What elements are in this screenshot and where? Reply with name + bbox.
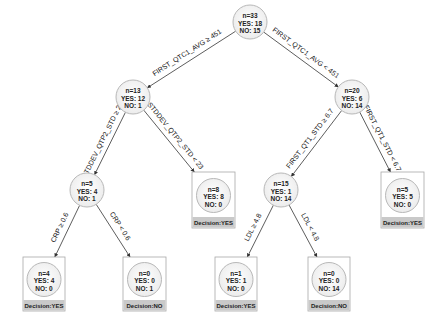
node-yes-count: YES: 0 bbox=[134, 277, 155, 284]
node-no-count: NO: 14 bbox=[319, 285, 340, 292]
edge-condition-label: CRP ≥ 0.6 bbox=[49, 211, 69, 243]
edge-condition-label: LDL ≥ 4.8 bbox=[243, 212, 263, 242]
tree-edge: LDL ≥ 4.8 bbox=[243, 205, 273, 257]
leaf-node: Decision:YESn=8YES: 8NO: 0 bbox=[192, 172, 235, 228]
node-no-count: NO: 1 bbox=[78, 195, 96, 202]
node-yes-count: YES: 0 bbox=[319, 277, 340, 284]
node-n-count: n=5 bbox=[81, 180, 93, 187]
node-no-count: NO: 1 bbox=[136, 285, 154, 292]
node-no-count: NO: 14 bbox=[342, 102, 363, 109]
node-n-count: n=4 bbox=[38, 270, 50, 277]
split-node: n=33YES: 18NO: 15 bbox=[233, 5, 267, 39]
edge-arrow bbox=[147, 31, 235, 88]
tree-edge: FIRST_QT1_STD ≥ 6.7 bbox=[285, 107, 342, 176]
tree-edge: CRP < 0.6 bbox=[96, 204, 132, 257]
node-yes-count: YES: 12 bbox=[121, 95, 146, 102]
node-n-count: n=15 bbox=[274, 180, 289, 187]
node-yes-count: YES: 5 bbox=[392, 193, 413, 200]
node-n-count: n=13 bbox=[126, 87, 141, 94]
split-node: n=20YES: 6NO: 14 bbox=[335, 80, 369, 114]
node-no-count: NO: 1 bbox=[124, 102, 142, 109]
node-yes-count: YES: 1 bbox=[271, 188, 292, 195]
node-no-count: NO: 0 bbox=[35, 285, 53, 292]
tree-edge: LDL < 4.8 bbox=[289, 205, 321, 257]
node-n-count: n=5 bbox=[397, 186, 409, 193]
node-yes-count: YES: 6 bbox=[342, 95, 363, 102]
node-n-count: n=33 bbox=[243, 12, 258, 19]
node-n-count: n=1 bbox=[230, 270, 242, 277]
edge-condition-label: FIRST_QT1_STD ≥ 6.7 bbox=[285, 107, 336, 170]
node-n-count: n=0 bbox=[323, 270, 335, 277]
tree-edge: FIRST_QTC1_AVG < 451 bbox=[264, 26, 341, 87]
split-node: n=5YES: 4NO: 1 bbox=[70, 173, 104, 207]
tree-edge: FIRST_QTC1_AVG ≥ 451 bbox=[147, 28, 235, 88]
leaf-node: Decision:YESn=1YES: 1NO: 0 bbox=[215, 257, 257, 311]
decision-label: Decision:YES bbox=[383, 220, 422, 226]
leaf-node: Decision:NOn=0YES: 0NO: 14 bbox=[308, 257, 350, 311]
split-node: n=15YES: 1NO: 14 bbox=[264, 173, 298, 207]
tree-edge: STDDEV_QTP2_STD < 23 bbox=[144, 101, 205, 172]
edge-condition-label: STDDEV_QTP2_STD ≥ 23 bbox=[81, 100, 125, 179]
tree-edge: FIRST_QT1_STD < 6.7 bbox=[360, 104, 403, 173]
decision-label: Decision:YES bbox=[24, 303, 63, 309]
edge-arrow bbox=[264, 32, 339, 87]
nodes-layer: n=33YES: 18NO: 15n=13YES: 12NO: 1n=20YES… bbox=[23, 5, 424, 311]
edge-arrow bbox=[144, 110, 195, 172]
leaf-node: Decision:YESn=4YES: 4NO: 0 bbox=[23, 257, 65, 311]
edge-condition-label: CRP < 0.6 bbox=[109, 211, 132, 242]
node-yes-count: YES: 4 bbox=[34, 277, 55, 284]
node-no-count: NO: 0 bbox=[205, 201, 223, 208]
node-n-count: n=8 bbox=[208, 186, 220, 193]
edge-condition-label: FIRST_QTC1_AVG ≥ 451 bbox=[151, 28, 223, 78]
edge-arrow bbox=[291, 111, 341, 177]
node-yes-count: YES: 8 bbox=[203, 193, 224, 200]
edge-condition-label: STDDEV_QTP2_STD < 23 bbox=[145, 101, 205, 171]
decision-label: Decision:YES bbox=[216, 303, 255, 309]
split-node: n=13YES: 12NO: 1 bbox=[116, 80, 150, 114]
node-yes-count: YES: 18 bbox=[238, 20, 263, 27]
decision-label: Decision:NO bbox=[311, 303, 347, 309]
decision-label: Decision:YES bbox=[194, 220, 233, 226]
node-no-count: NO: 0 bbox=[394, 201, 412, 208]
node-no-count: NO: 15 bbox=[240, 27, 261, 34]
node-yes-count: YES: 1 bbox=[226, 277, 247, 284]
leaf-node: Decision:YESn=5YES: 5NO: 0 bbox=[381, 172, 424, 228]
edge-condition-label: FIRST_QTC1_AVG < 451 bbox=[271, 26, 341, 80]
edge-condition-label: LDL < 4.8 bbox=[300, 212, 321, 242]
tree-edge: CRP ≥ 0.6 bbox=[49, 205, 79, 257]
leaf-node: Decision:NOn=0YES: 0NO: 1 bbox=[123, 257, 166, 311]
node-yes-count: YES: 4 bbox=[77, 188, 98, 195]
node-n-count: n=20 bbox=[345, 87, 360, 94]
tree-edge: STDDEV_QTP2_STD ≥ 23 bbox=[81, 100, 126, 179]
node-n-count: n=0 bbox=[139, 270, 151, 277]
node-no-count: NO: 0 bbox=[227, 285, 245, 292]
decision-label: Decision:NO bbox=[126, 303, 162, 309]
decision-tree-diagram: FIRST_QTC1_AVG ≥ 451FIRST_QTC1_AVG < 451… bbox=[0, 0, 443, 332]
edge-condition-label: FIRST_QT1_STD < 6.7 bbox=[362, 104, 403, 173]
node-no-count: NO: 14 bbox=[271, 195, 292, 202]
